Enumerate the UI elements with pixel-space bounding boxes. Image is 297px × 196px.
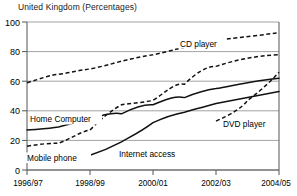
y-label-40: 40: [10, 106, 20, 116]
series-mobile-phone: [27, 55, 279, 147]
series-label-cd-player: CD player: [180, 39, 217, 49]
series-label-internet-access: Internet access: [119, 149, 175, 159]
y-label-80: 80: [10, 47, 20, 57]
gridlines: [27, 22, 279, 170]
x-label-2002-03: 2002/03: [201, 179, 231, 188]
series-label-home-computer: Home Computer: [30, 114, 91, 124]
series-annotations: CD player DVD player Home Computer Mobil…: [26, 39, 276, 164]
y-axis-labels: 100 80 60 40 20 0: [5, 18, 20, 176]
x-label-1998-99: 1998/99: [75, 179, 105, 188]
x-label-2004-05: 2004/05: [261, 179, 291, 188]
line-chart-svg: 100 80 60 40 20 0 1996/97 1998/99 2000/0…: [0, 0, 297, 196]
x-tickmarks: [27, 170, 279, 175]
axes: [27, 22, 279, 170]
series-cd-player: [27, 33, 279, 83]
y-label-0: 0: [15, 166, 20, 176]
data-series: [27, 33, 279, 156]
y-label-20: 20: [10, 136, 20, 146]
x-axis-labels: 1996/97 1998/99 2000/01 2002/03 2004/05: [13, 179, 291, 188]
x-label-1996-97: 1996/97: [13, 179, 43, 188]
series-label-mobile-phone: Mobile phone: [27, 153, 77, 163]
series-label-dvd-player: DVD player: [223, 119, 266, 129]
y-tickmarks: [22, 22, 27, 170]
x-label-2000-01: 2000/01: [138, 179, 168, 188]
y-label-100: 100: [5, 18, 20, 28]
chart-container: United Kingdom (Percentages): [0, 0, 297, 196]
y-label-60: 60: [10, 77, 20, 87]
